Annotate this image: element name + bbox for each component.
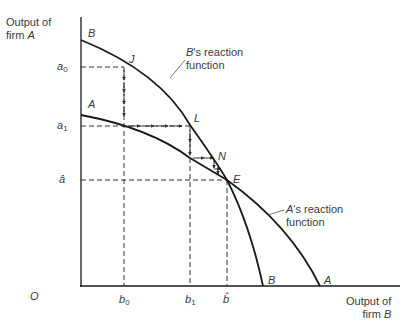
y-axis-label-line2: firm A <box>6 29 51 42</box>
a-reaction-annotation-rest: 's reaction <box>293 203 343 215</box>
y-axis-label-line1: Output of <box>6 16 51 29</box>
y-tick-a1: a1 <box>57 119 68 135</box>
x-tick-b1-sub: 1 <box>191 298 195 307</box>
y-tick-a-hat: â <box>59 173 65 186</box>
origin-label: O <box>30 290 39 303</box>
x-tick-b-hat: b̂ <box>223 293 229 306</box>
x-axis-label-prefix: firm <box>363 308 384 320</box>
x-tick-b0: b0 <box>119 293 130 309</box>
a-annotation-leader <box>268 210 284 215</box>
y-tick-a1-sub: 1 <box>63 124 67 133</box>
b-reaction-annotation-line2: function <box>186 59 243 72</box>
x-tick-b1: b1 <box>185 293 196 309</box>
x-tick-b0-sub: 0 <box>125 298 129 307</box>
x-axis-label: Output of firm B <box>346 295 391 321</box>
a-curve-end-label: A <box>324 274 331 287</box>
b-curve-end-label: B <box>268 274 275 287</box>
b-reaction-annotation-rest: 's reaction <box>193 46 243 58</box>
a-curve-start-label: A <box>88 98 95 111</box>
b-reaction-curve <box>81 40 263 286</box>
point-e-label: E <box>233 173 240 186</box>
point-n-label: N <box>218 150 226 163</box>
a-reaction-annotation-line1: A's reaction <box>286 203 343 216</box>
x-tick-b-hat-base: b̂ <box>223 293 229 305</box>
y-tick-a0-sub: 0 <box>63 65 67 74</box>
adjustment-arrows <box>124 70 220 174</box>
b-annotation-leader <box>170 60 185 78</box>
b-curve-start-label: B <box>88 27 95 40</box>
x-axis-label-line2: firm B <box>346 308 391 321</box>
x-axis-label-line1: Output of <box>346 295 391 308</box>
y-tick-a-hat-base: â <box>59 173 65 185</box>
point-l-label: L <box>194 112 200 125</box>
point-j-label: J <box>129 53 135 66</box>
y-tick-a0: a0 <box>57 60 68 76</box>
b-reaction-annotation: B's reaction function <box>186 46 243 72</box>
a-reaction-annotation: A's reaction function <box>286 203 343 229</box>
y-axis-label-prefix: firm <box>6 29 27 41</box>
a-reaction-annotation-line2: function <box>286 216 343 229</box>
y-axis-label: Output of firm A <box>6 16 51 42</box>
b-reaction-annotation-line1: B's reaction <box>186 46 243 59</box>
y-axis-label-var: A <box>27 29 34 41</box>
x-axis-label-var: B <box>384 308 391 320</box>
guide-lines <box>81 67 227 286</box>
